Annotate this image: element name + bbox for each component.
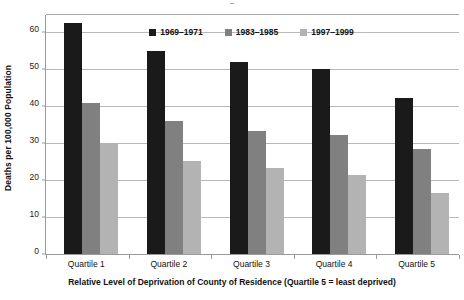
cropped-title-fragment: ¨ (0, 0, 464, 8)
bar-chart-figure: ¨ Deaths per 100,000 Population 01020304… (0, 0, 464, 300)
legend-item[interactable]: 1969–1971 (149, 28, 203, 37)
legend-swatch-icon (300, 29, 307, 36)
bar[interactable] (230, 62, 248, 254)
y-tick-label: 40 (2, 98, 46, 107)
y-tick-label: 30 (2, 135, 46, 144)
y-tick-label: 10 (2, 209, 46, 218)
x-tick-label: Quartile 4 (293, 259, 376, 270)
y-tick-label: 60 (2, 24, 46, 33)
x-axis-tick-labels: Quartile 1Quartile 2Quartile 3Quartile 4… (45, 259, 458, 273)
bar[interactable] (147, 51, 165, 254)
cropped-title-text: ¨ (230, 2, 233, 8)
x-tick-label: Quartile 1 (45, 259, 128, 270)
y-tick-label: 50 (2, 61, 46, 70)
bar-group (147, 15, 201, 254)
bar[interactable] (431, 193, 449, 254)
legend-swatch-icon (149, 29, 156, 36)
legend-label: 1983–1985 (236, 28, 279, 37)
x-tick-label: Quartile 2 (128, 259, 211, 270)
x-tick-label: Quartile 5 (375, 259, 458, 270)
bar[interactable] (330, 135, 348, 254)
bar-group (312, 15, 366, 254)
bar-group (64, 15, 118, 254)
y-tick-label: 0 (2, 246, 46, 255)
bar-groups (46, 15, 459, 255)
bar[interactable] (183, 161, 201, 254)
bar[interactable] (413, 149, 431, 254)
legend-item[interactable]: 1997–1999 (300, 28, 354, 37)
bar[interactable] (100, 143, 118, 254)
legend-label: 1969–1971 (160, 28, 203, 37)
bar-group (230, 15, 284, 254)
bar[interactable] (395, 98, 413, 254)
x-tick-label: Quartile 3 (210, 259, 293, 270)
x-axis-title: Relative Level of Deprivation of County … (0, 277, 464, 287)
bar[interactable] (165, 121, 183, 254)
bar[interactable] (348, 175, 366, 254)
bar-group (395, 15, 449, 254)
bar[interactable] (82, 103, 100, 254)
bar[interactable] (248, 131, 266, 254)
bar[interactable] (64, 23, 82, 255)
chart-legend: 1969–19711983–19851997–1999 (45, 25, 458, 39)
plot-area: 0102030405060 (45, 15, 458, 255)
x-tick-mark (459, 255, 460, 259)
bar[interactable] (266, 168, 284, 254)
legend-label: 1997–1999 (311, 28, 354, 37)
legend-item[interactable]: 1983–1985 (225, 28, 279, 37)
y-tick-label: 20 (2, 172, 46, 181)
bar[interactable] (312, 69, 330, 254)
legend-swatch-icon (225, 29, 232, 36)
